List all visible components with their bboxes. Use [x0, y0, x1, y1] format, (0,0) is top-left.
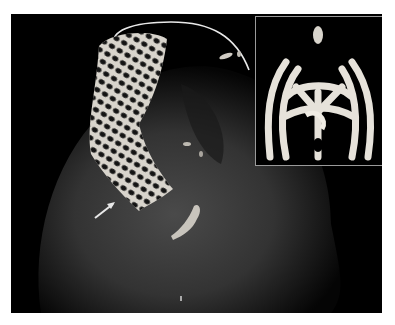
calcification: [219, 51, 234, 60]
calcification: [199, 151, 203, 157]
inset-view: [255, 16, 382, 166]
calcification: [183, 142, 191, 146]
calcification: [237, 51, 241, 57]
inset-stent-end-view: [256, 17, 382, 165]
marker: [180, 296, 182, 301]
ct-figure: [11, 14, 382, 313]
